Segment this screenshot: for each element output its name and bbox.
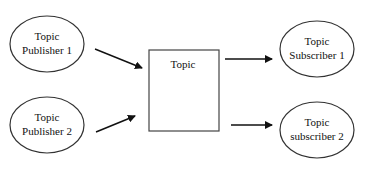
publisher-2-line2: Publisher 2 xyxy=(22,125,72,137)
node-topic-subscriber-2: Topic subscriber 2 xyxy=(280,102,354,158)
arrow-publisher-1-to-topic xyxy=(95,49,142,68)
subscriber-1-line2: Subscriber 1 xyxy=(289,49,344,61)
node-topic: Topic xyxy=(149,50,219,131)
pubsub-diagram: Topic Publisher 1 Topic Publisher 2 Topi… xyxy=(0,0,371,178)
node-topic-subscriber-1: Topic Subscriber 1 xyxy=(280,21,354,77)
publisher-1-line1: Topic xyxy=(35,30,60,42)
publisher-1-line2: Publisher 1 xyxy=(22,44,72,56)
topic-label: Topic xyxy=(171,58,196,70)
publisher-2-line1: Topic xyxy=(35,111,60,123)
arrow-publisher-2-to-topic xyxy=(96,116,135,132)
subscriber-2-line2: subscriber 2 xyxy=(290,130,343,142)
node-topic-publisher-2: Topic Publisher 2 xyxy=(10,97,84,153)
subscriber-1-line1: Topic xyxy=(305,35,330,47)
subscriber-2-line1: Topic xyxy=(305,116,330,128)
node-topic-publisher-1: Topic Publisher 1 xyxy=(10,16,84,72)
